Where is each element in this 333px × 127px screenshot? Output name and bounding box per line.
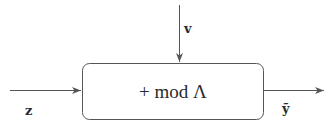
block-label: + mod Λ bbox=[139, 82, 207, 101]
input-z-label: z bbox=[25, 104, 32, 117]
input-v-label: v bbox=[184, 22, 192, 35]
output-y-tilde-label: ỹ bbox=[282, 102, 290, 115]
